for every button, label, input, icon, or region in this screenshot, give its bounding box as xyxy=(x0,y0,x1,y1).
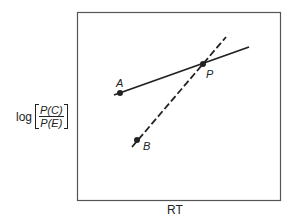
y-axis-denominator: P(E) xyxy=(39,117,63,129)
solid-line-A xyxy=(114,47,249,95)
plot-frame xyxy=(78,13,281,201)
y-axis-fraction: P(C) P(E) xyxy=(35,104,68,129)
point-B-label: B xyxy=(143,140,150,152)
point-P-label: P xyxy=(206,68,213,80)
y-axis-log-prefix: log xyxy=(16,110,32,124)
x-axis-label: RT xyxy=(167,203,183,217)
point-A-label: A xyxy=(116,77,123,89)
right-bracket xyxy=(64,104,68,129)
y-axis-numerator: P(C) xyxy=(39,104,64,117)
left-bracket xyxy=(35,104,39,129)
point-A-marker xyxy=(117,90,123,96)
point-P-marker xyxy=(200,61,206,67)
point-B-marker xyxy=(134,137,140,143)
dashed-line-B xyxy=(132,37,226,147)
y-axis-label: log P(C) P(E) xyxy=(16,104,68,129)
